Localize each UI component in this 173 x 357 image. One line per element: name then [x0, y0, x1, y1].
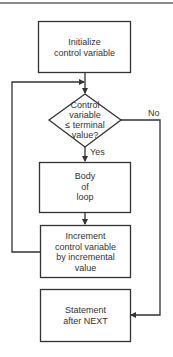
increment-line-4: value	[40, 263, 131, 274]
init-line-1: Initialize	[38, 37, 131, 48]
body-line-3: loop	[39, 192, 131, 203]
increment-line-3: by incremental	[40, 252, 131, 263]
increment-label: Increment control variable by incrementa…	[40, 231, 131, 273]
body-line-1: Body	[39, 171, 131, 182]
body-line-2: of	[39, 182, 131, 193]
after-label: Statement after NEXT	[40, 305, 131, 326]
decision-line-2: variable	[55, 110, 115, 120]
after-line-1: Statement	[40, 305, 131, 316]
decision-line-3: ≤ terminal	[55, 120, 115, 130]
edge-no	[121, 120, 160, 315]
after-line-2: after NEXT	[40, 316, 131, 327]
increment-line-2: control variable	[40, 242, 131, 253]
decision-label: Control variable ≤ terminal value?	[55, 100, 115, 140]
body-label: Body of loop	[39, 171, 131, 203]
decision-line-1: Control	[55, 100, 115, 110]
increment-line-1: Increment	[40, 231, 131, 242]
yes-label: Yes	[90, 147, 110, 158]
no-label: No	[148, 108, 168, 119]
init-label: Initialize control variable	[38, 37, 131, 58]
init-line-2: control variable	[38, 48, 131, 59]
decision-line-4: value?	[55, 130, 115, 140]
